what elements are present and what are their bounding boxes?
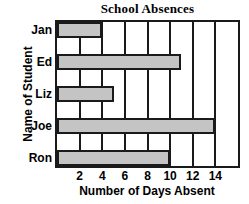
gridline bbox=[147, 22, 149, 166]
x-axis-tick-label: 14 bbox=[204, 169, 226, 183]
x-axis-title: Number of Days Absent bbox=[48, 184, 246, 198]
bar bbox=[57, 54, 181, 70]
gridline bbox=[192, 22, 194, 166]
bar bbox=[57, 150, 170, 166]
bar bbox=[57, 118, 215, 134]
y-axis-tick-label: Joe bbox=[0, 120, 52, 132]
x-axis-tick-label: 6 bbox=[114, 169, 136, 183]
x-axis-tick-label: 8 bbox=[137, 169, 159, 183]
gridline bbox=[169, 22, 171, 166]
x-axis-tick-label: 4 bbox=[91, 169, 113, 183]
gridline bbox=[124, 22, 126, 166]
y-axis-tick-label: Ed bbox=[0, 56, 52, 68]
y-axis-tick-label: Liz bbox=[0, 88, 52, 100]
y-axis-tick-label: Jan bbox=[0, 24, 52, 36]
x-axis-tick-label: 10 bbox=[159, 169, 181, 183]
plot-area bbox=[55, 20, 240, 168]
bar bbox=[57, 86, 114, 102]
y-axis-tick-label: Ron bbox=[0, 152, 52, 164]
gridline bbox=[214, 22, 216, 166]
chart-title: School Absences bbox=[50, 1, 245, 17]
x-axis-tick-label: 2 bbox=[69, 169, 91, 183]
bar-chart: School Absences Name of Student JanEdLiz… bbox=[0, 0, 249, 204]
x-axis-tick-label: 12 bbox=[182, 169, 204, 183]
bar bbox=[57, 22, 102, 38]
